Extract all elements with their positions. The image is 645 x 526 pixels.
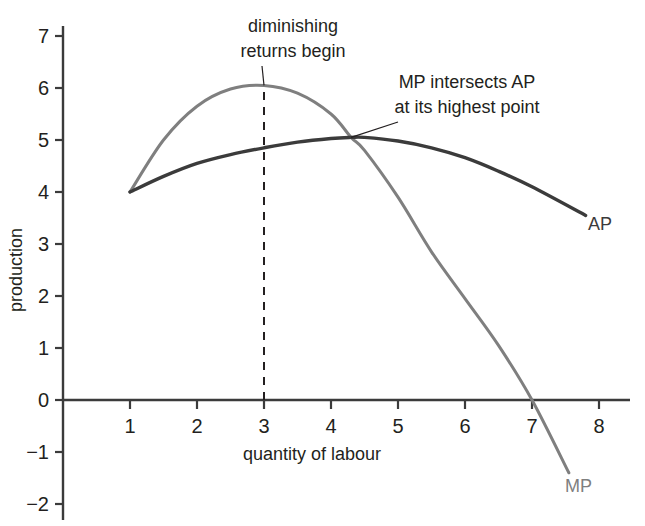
x-axis-title: quantity of labour <box>243 444 381 464</box>
ap-series-label: AP <box>588 214 612 234</box>
y-tick-label: 4 <box>38 181 49 203</box>
mp-intersects-ap-annotation-line1: MP intersects AP <box>399 72 536 92</box>
y-tick-label: 5 <box>38 129 49 151</box>
y-tick-label: 7 <box>38 25 49 47</box>
mp-series-label: MP <box>565 476 592 496</box>
ap-curve <box>130 137 586 215</box>
x-axis-ticks <box>130 400 599 409</box>
production-chart: 76543210−1−2 12345678 diminishing return… <box>0 0 645 526</box>
x-tick-label: 4 <box>325 415 336 437</box>
mp-intersects-ap-annotation-line2: at its highest point <box>394 97 539 117</box>
y-tick-label: 2 <box>38 285 49 307</box>
x-tick-label: 6 <box>459 415 470 437</box>
x-tick-label: 3 <box>258 415 269 437</box>
x-tick-label: 7 <box>526 415 537 437</box>
y-tick-label: −1 <box>26 441 49 463</box>
diminishing-returns-annotation-line1: diminishing <box>248 16 338 36</box>
y-tick-label: 1 <box>38 337 49 359</box>
y-tick-label: 6 <box>38 77 49 99</box>
x-tick-label: 2 <box>191 415 202 437</box>
chart-canvas: 76543210−1−2 12345678 diminishing return… <box>0 0 645 526</box>
y-axis-title: production <box>6 228 26 312</box>
y-tick-label: −2 <box>26 493 49 515</box>
x-axis-tick-labels: 12345678 <box>124 415 604 437</box>
diminishing-returns-annotation-line2: returns begin <box>240 41 345 61</box>
diminishing-returns-leader-line <box>262 66 264 85</box>
x-tick-label: 1 <box>124 415 135 437</box>
y-tick-label: 0 <box>38 389 49 411</box>
y-tick-label: 3 <box>38 233 49 255</box>
y-axis-tick-labels: 76543210−1−2 <box>26 25 49 515</box>
x-tick-label: 5 <box>392 415 403 437</box>
mp-intersects-ap-leader-line <box>351 122 398 137</box>
x-tick-label: 8 <box>593 415 604 437</box>
